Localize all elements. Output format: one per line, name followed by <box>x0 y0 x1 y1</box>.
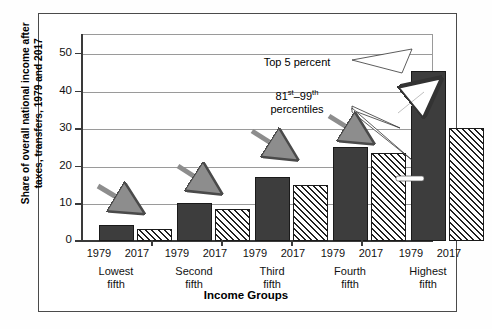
annotation-81-99-line2: percentiles <box>270 103 323 115</box>
annotation-top-5-percent: Top 5 percent <box>243 56 351 69</box>
x-year-label-third-1979: 1979 <box>238 247 272 259</box>
x-year-label-second-2017: 2017 <box>198 247 232 259</box>
x-group-label-fourth-line1: Fourth <box>334 265 366 277</box>
x-year-label-lowest-1979: 1979 <box>82 247 116 259</box>
y-tick-label-0: 0 <box>38 234 72 246</box>
x-group-label-third-line1: Third <box>259 265 284 277</box>
x-group-separator-4 <box>361 240 363 246</box>
x-group-label-highest-line1: Highest <box>409 265 446 277</box>
x-group-label-lowest-line1: Lowest <box>99 265 134 277</box>
x-group-label-second: Second fifth <box>149 265 239 292</box>
x-group-label-third: Third fifth <box>227 265 317 292</box>
x-group-separator-2 <box>221 240 223 246</box>
y-tick-label-40: 40 <box>38 85 72 97</box>
x-group-label-lowest: Lowest fifth <box>71 265 161 292</box>
x-axis-title: Income Groups <box>0 289 492 301</box>
x-group-label-fourth: Fourth fifth <box>305 265 395 292</box>
x-year-label-fourth-1979: 1979 <box>316 247 350 259</box>
y-tick-label-20: 20 <box>38 160 72 172</box>
x-group-label-highest: Highest fifth <box>383 265 473 292</box>
bar-highest-2017-p8199[interactable] <box>449 128 484 241</box>
x-year-label-third-2017: 2017 <box>276 247 310 259</box>
annotation-81-99-pre: 81 <box>276 90 288 102</box>
y-tick-label-50: 50 <box>38 47 72 59</box>
x-year-label-fourth-2017: 2017 <box>354 247 388 259</box>
x-group-separator-1 <box>151 240 153 246</box>
annotation-81-99-line1: 81st–99th <box>276 90 319 102</box>
x-year-label-lowest-2017: 2017 <box>120 247 154 259</box>
annotation-81-99-percentiles: 81st–99th percentiles <box>245 88 349 116</box>
x-year-label-second-1979: 1979 <box>160 247 194 259</box>
y-axis-title: Share of overall national income after t… <box>19 13 46 213</box>
y-tick-label-30: 30 <box>38 122 72 134</box>
x-group-label-second-line1: Second <box>175 265 212 277</box>
x-year-label-highest-1979: 1979 <box>394 247 428 259</box>
chart-figure: Share of overall national income after t… <box>0 0 492 329</box>
x-year-label-highest-2017: 2017 <box>432 247 466 259</box>
bar-highest-1979-top5[interactable] <box>411 71 446 241</box>
y-tick-label-10: 10 <box>38 197 72 209</box>
x-group-separator-3 <box>291 240 293 246</box>
annotation-81-99-sup-th: th <box>312 88 318 97</box>
annotation-81-99-mid: –99 <box>294 90 312 102</box>
